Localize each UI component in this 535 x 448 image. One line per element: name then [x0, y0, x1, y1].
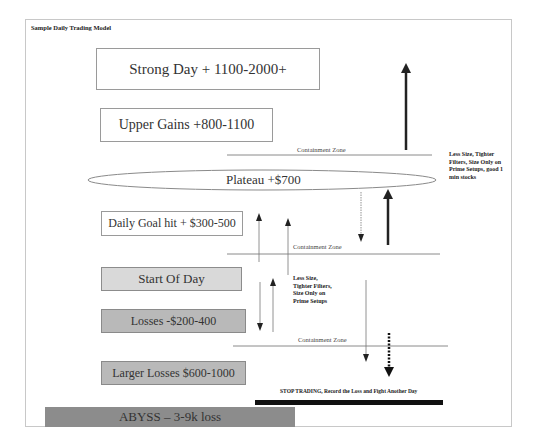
stop-bar: [255, 400, 443, 405]
diagram-connectors: [0, 0, 535, 448]
note-upper: Less Size, Tighter Filters, Size Only on…: [449, 151, 507, 181]
note-lower: Less Size, Tighter Filters, Size Only on…: [293, 275, 333, 305]
containment-zone-label-middle: Containment Zone: [293, 243, 342, 250]
containment-zone-label-lower: Containment Zone: [298, 336, 347, 343]
level-plateau-label: Plateau +$700: [226, 172, 301, 188]
containment-zone-label-upper: Containment Zone: [297, 146, 346, 153]
stop-message: STOP TRADING, Record the Loss and Fight …: [280, 388, 417, 394]
